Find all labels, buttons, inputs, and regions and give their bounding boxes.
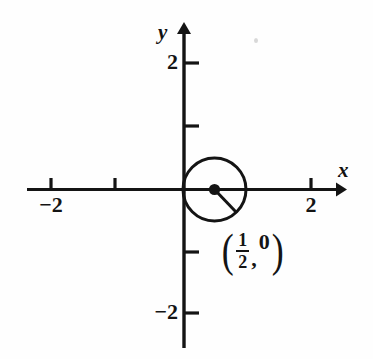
diagram-canvas bbox=[0, 0, 373, 359]
y-tick-label-2: 2 bbox=[152, 51, 178, 73]
x-tick-label--2: −2 bbox=[31, 194, 71, 216]
fraction-denominator: 2 bbox=[236, 253, 249, 271]
x-axis-label: x bbox=[338, 160, 349, 181]
annotation-separator: , bbox=[251, 248, 257, 272]
y-axis-label: y bbox=[158, 22, 167, 43]
annotation-close-paren: ) bbox=[272, 230, 284, 272]
x-tick-label-2: 2 bbox=[296, 194, 326, 216]
center-point-annotation: ( 1 2 , 0 ) bbox=[220, 230, 285, 272]
annotation-second-value: 0 bbox=[259, 230, 270, 253]
y-axis-arrowhead bbox=[177, 22, 191, 34]
y-tick-label--2: −2 bbox=[138, 301, 178, 323]
center-point-marker bbox=[209, 184, 220, 195]
x-axis-arrowhead bbox=[336, 183, 347, 197]
annotation-fraction: 1 2 bbox=[236, 231, 249, 271]
fraction-numerator: 1 bbox=[236, 231, 249, 249]
scan-speck bbox=[254, 38, 258, 43]
coordinate-plane-figure: x y −2 2 2 −2 ( 1 2 , 0 ) bbox=[0, 0, 373, 359]
annotation-open-paren: ( bbox=[222, 230, 234, 272]
